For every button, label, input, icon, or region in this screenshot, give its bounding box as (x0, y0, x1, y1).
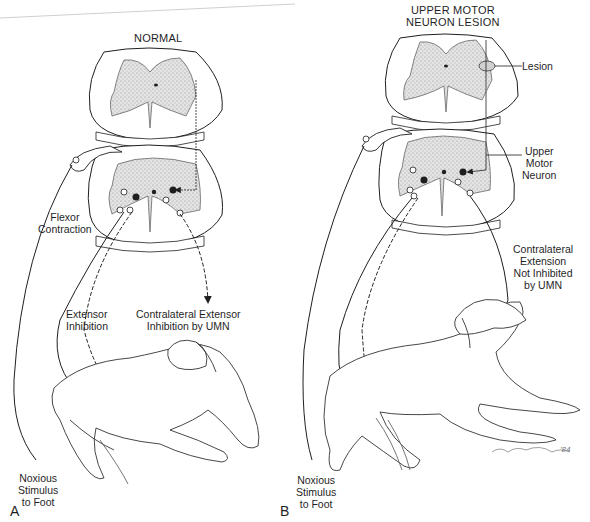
panel-b-spinal-cord-upper (385, 34, 518, 131)
dog-illustration-a (52, 340, 259, 484)
upper-motor-neuron-label: Upper Motor Neuron (522, 145, 556, 181)
extensor-inhibition-label: Extensor Inhibition (66, 308, 108, 332)
flexor-contraction-label: Flexor Contraction (38, 211, 92, 235)
panel-letter-b: B (280, 503, 289, 519)
noxious-stimulus-label-b: Noxious Stimulus to Foot (296, 474, 336, 510)
panel-b-title: UPPER MOTOR NEURON LESION (406, 4, 500, 28)
contralateral-extensor-inhibition-label: Contralateral Extensor Inhibition by UMN (136, 308, 240, 332)
panel-a-spinal-cord-upper (89, 48, 222, 147)
lesion-mark (479, 61, 495, 71)
contralateral-extension-label: Contralateral Extension Not Inhibited by… (513, 243, 573, 291)
lesion-label: Lesion (522, 60, 553, 72)
signature-year: '84 (560, 444, 570, 456)
panel-a-title: NORMAL (134, 32, 182, 44)
panel-b-spinal-cord-lower (379, 129, 515, 235)
diagram-artwork (0, 0, 590, 522)
page-edge (0, 4, 295, 18)
noxious-stimulus-label-a: Noxious Stimulus to Foot (18, 472, 58, 508)
panel-letter-a: A (10, 503, 19, 519)
artist-signature (492, 447, 570, 452)
